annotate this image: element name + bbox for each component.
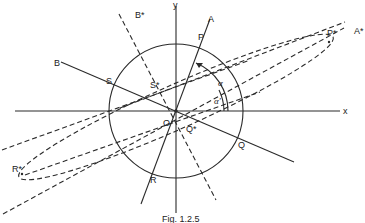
line-B-star-label: B* (135, 10, 145, 20)
strain-ellipse-figure: y x A B B* A* O P S Q R S* Q* P* R* α α'… (0, 0, 365, 223)
point-Q-label: Q (238, 140, 245, 150)
guide-line-bottom (25, 92, 260, 175)
point-P-label: P (198, 32, 204, 42)
diagram-canvas: y x A B B* A* O P S Q R S* Q* P* R* α α'… (0, 0, 365, 223)
line-B (61, 62, 294, 162)
line-A-star-label: A* (354, 26, 364, 36)
angle-alpha-label: α (218, 78, 223, 88)
point-S-label: S (106, 76, 112, 86)
point-R-star-label: R* (12, 164, 22, 174)
angle-alpha-prime-label: α' (214, 96, 222, 106)
figure-caption: Fig. 1.2.5 (162, 214, 200, 223)
origin-point (174, 109, 178, 113)
origin-label: O (163, 118, 170, 128)
y-axis-label: y (173, 0, 178, 10)
line-B-label: B (54, 58, 60, 68)
point-P-star-label: P* (327, 28, 337, 38)
line-A-label: A (208, 14, 214, 24)
line-A-star (3, 28, 344, 214)
point-S-star-label: S* (150, 80, 160, 90)
point-Q-star-label: Q* (186, 124, 197, 134)
x-axis-label: x (343, 106, 348, 116)
point-R-label: R (150, 175, 157, 185)
point-P-star-marker (328, 41, 330, 43)
